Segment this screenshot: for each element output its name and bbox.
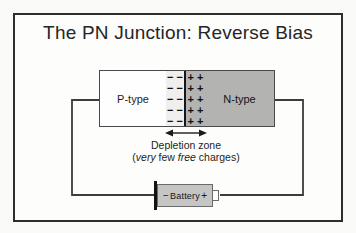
plus-charge-row: + + — [186, 116, 205, 127]
subtitle-text: few — [156, 151, 178, 163]
battery-body: − Battery + — [157, 184, 213, 207]
p-type-label: P-type — [117, 93, 149, 105]
minus-charge-row: − − — [166, 116, 184, 127]
page-title: The PN Junction: Reverse Bias — [13, 22, 343, 44]
n-type-region: N-type — [205, 71, 274, 126]
depletion-minus-strip: − − − − − − − − − − — [166, 71, 184, 126]
battery-label: Battery — [170, 191, 200, 201]
battery-positive-nub — [212, 190, 219, 201]
pn-junction-box: P-type − − − − − − − − − − + + + + + + +… — [99, 70, 275, 127]
n-type-label: N-type — [223, 93, 255, 105]
subtitle-italic-free: free — [178, 151, 196, 163]
battery-plus-sign: + — [201, 191, 207, 201]
slide: The PN Junction: Reverse Bias P-type − −… — [0, 0, 356, 233]
depletion-zone-subtitle: (very few free charges) — [86, 151, 286, 163]
depletion-plus-strip: + + + + + + + + + + — [184, 71, 205, 126]
depletion-zone-label: Depletion zone — [96, 139, 276, 151]
subtitle-italic-very: very — [136, 151, 156, 163]
subtitle-text: charges) — [196, 151, 240, 163]
battery-minus-sign: − — [163, 191, 169, 201]
p-type-region: P-type — [100, 71, 166, 126]
